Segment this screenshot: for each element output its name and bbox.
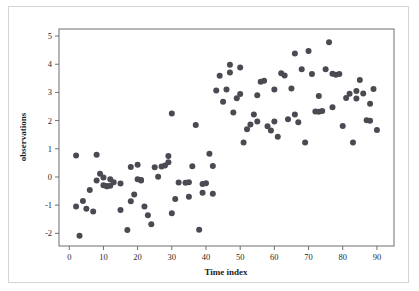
data-point xyxy=(299,66,305,72)
data-point xyxy=(176,180,182,186)
data-point xyxy=(135,162,141,168)
data-point xyxy=(210,163,216,169)
data-point xyxy=(224,87,230,93)
data-point xyxy=(118,180,124,186)
data-point xyxy=(227,69,233,75)
data-point xyxy=(275,134,281,140)
data-point xyxy=(196,227,202,233)
data-point xyxy=(374,127,380,133)
data-point xyxy=(367,101,373,107)
data-point xyxy=(169,210,175,216)
data-point xyxy=(94,152,100,158)
data-point xyxy=(118,207,124,213)
data-point xyxy=(186,179,192,185)
data-point xyxy=(210,191,216,197)
data-point xyxy=(261,78,267,84)
y-tick-label: 5 xyxy=(48,31,52,41)
data-point xyxy=(217,73,223,79)
x-tick-label: 60 xyxy=(270,252,279,262)
data-point xyxy=(370,86,376,92)
data-point xyxy=(319,108,325,114)
data-points xyxy=(73,39,380,239)
y-axis-ticks: -2-1012345 xyxy=(45,31,59,238)
data-point xyxy=(347,91,353,97)
data-point xyxy=(288,85,294,91)
data-point xyxy=(94,178,100,184)
x-tick-label: 80 xyxy=(338,252,347,262)
data-point xyxy=(282,73,288,79)
data-point xyxy=(186,194,192,200)
data-point xyxy=(271,87,277,93)
y-axis-title: observations xyxy=(18,112,28,161)
x-tick-label: 0 xyxy=(67,252,71,262)
data-point xyxy=(128,164,134,170)
data-point xyxy=(295,119,301,125)
data-point xyxy=(128,198,134,204)
data-point xyxy=(83,206,89,212)
data-point xyxy=(357,77,363,83)
x-axis-title: Time index xyxy=(204,267,248,277)
data-point xyxy=(141,204,147,210)
y-tick-label: -2 xyxy=(45,228,52,238)
data-point xyxy=(213,87,219,93)
data-point xyxy=(247,122,253,128)
data-point xyxy=(152,164,158,170)
data-point xyxy=(237,91,243,97)
data-point xyxy=(350,140,356,146)
data-point xyxy=(73,153,79,159)
y-tick-label: 2 xyxy=(48,116,52,126)
data-point xyxy=(90,209,96,215)
data-point xyxy=(73,204,79,210)
x-tick-label: 10 xyxy=(99,252,108,262)
data-point xyxy=(206,151,212,157)
data-point xyxy=(340,123,346,129)
x-tick-label: 70 xyxy=(304,252,313,262)
data-point xyxy=(203,180,209,186)
data-point xyxy=(309,71,315,77)
data-point xyxy=(353,88,359,94)
data-point xyxy=(87,187,93,193)
data-point xyxy=(155,174,161,180)
data-point xyxy=(268,127,274,133)
x-tick-label: 90 xyxy=(373,252,382,262)
x-tick-label: 30 xyxy=(168,252,177,262)
x-axis-ticks: 0102030405060708090 xyxy=(67,246,381,262)
data-point xyxy=(220,99,226,105)
data-point xyxy=(251,111,257,117)
data-point xyxy=(360,91,366,97)
data-point xyxy=(77,233,83,239)
data-point xyxy=(165,153,171,159)
data-point xyxy=(292,111,298,117)
data-point xyxy=(189,163,195,169)
y-tick-label: -1 xyxy=(45,200,52,210)
data-point xyxy=(302,140,308,146)
data-point xyxy=(353,96,359,102)
data-point xyxy=(172,196,178,202)
data-point xyxy=(111,179,117,185)
data-point xyxy=(193,122,199,128)
data-point xyxy=(326,39,332,45)
data-point xyxy=(306,48,312,54)
data-point xyxy=(254,92,260,98)
y-tick-label: 4 xyxy=(48,59,53,69)
data-point xyxy=(227,62,233,68)
data-point xyxy=(230,109,236,115)
data-point xyxy=(329,104,335,110)
data-point xyxy=(145,212,151,218)
y-tick-label: 0 xyxy=(48,172,52,182)
data-point xyxy=(316,93,322,99)
data-point xyxy=(323,66,329,72)
data-point xyxy=(131,191,137,197)
data-point xyxy=(271,118,277,124)
data-point xyxy=(237,65,243,71)
x-tick-label: 20 xyxy=(133,252,142,262)
data-point xyxy=(254,118,260,124)
x-tick-label: 40 xyxy=(202,252,211,262)
data-point xyxy=(169,111,175,117)
data-point xyxy=(241,140,247,146)
plot-area-border xyxy=(59,29,394,246)
data-point xyxy=(124,227,130,233)
data-point xyxy=(80,198,86,204)
scatter-plot: 0102030405060708090 -2-1012345 Time inde… xyxy=(9,7,408,282)
data-point xyxy=(148,221,154,227)
